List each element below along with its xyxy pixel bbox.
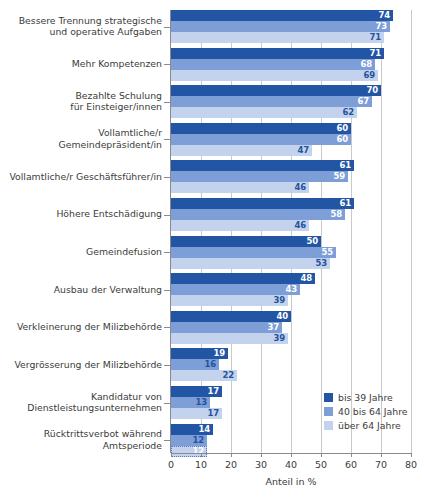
bar[interactable] [171, 198, 354, 209]
x-axis-tick-label: 30 [246, 459, 276, 470]
bar-value-label: 13 [194, 397, 207, 408]
bar[interactable] [171, 59, 375, 70]
bar-value-label: 12 [191, 446, 204, 457]
x-axis-tick-label: 80 [396, 459, 426, 470]
bar-row: 48 [171, 273, 411, 284]
legend-item-ueber-64-jahre[interactable]: über 64 Jahre [324, 417, 408, 431]
bar-group: 191622 [171, 348, 411, 381]
bar-value-label: 69 [362, 70, 375, 81]
bar[interactable] [171, 284, 300, 295]
x-axis-tick [351, 453, 352, 457]
bar[interactable] [171, 247, 336, 258]
bar-group: 484339 [171, 273, 411, 306]
x-axis-tick [201, 453, 202, 457]
category-tick [164, 290, 170, 291]
legend-item-40-bis-64-jahre[interactable]: 40 bis 64 Jahre [324, 403, 408, 417]
category-label-line: Höhere Entschädigung [0, 208, 162, 219]
category-label: Ausbau der Verwaltung [0, 284, 162, 295]
bar[interactable] [171, 333, 288, 344]
bar[interactable] [171, 48, 384, 59]
bar-row: 16 [171, 359, 411, 370]
bar[interactable] [171, 209, 345, 220]
bar[interactable] [171, 220, 309, 231]
category-tick [164, 139, 170, 140]
bar[interactable] [171, 145, 312, 156]
bar[interactable] [171, 32, 384, 43]
bar[interactable] [171, 295, 288, 306]
category-label-line: Rücktrittsverbot während [0, 428, 162, 439]
bar[interactable] [171, 258, 330, 269]
bar-row: 55 [171, 247, 411, 258]
legend-item-label: über 64 Jahre [338, 420, 401, 431]
bar-row: 71 [171, 32, 411, 43]
x-axis-tick [321, 453, 322, 457]
bar-row: 37 [171, 322, 411, 333]
category-label: Vergrösserung der Milizbehörde [0, 359, 162, 370]
bar-row: 73 [171, 21, 411, 32]
bar[interactable] [171, 123, 351, 134]
category-tick [164, 440, 170, 441]
bar[interactable] [171, 236, 321, 247]
bar-row: 71 [171, 48, 411, 59]
category-tick [164, 27, 170, 28]
category-label: Mehr Kompetenzen [0, 58, 162, 69]
gridline [411, 10, 412, 453]
bar-value-label: 70 [365, 85, 378, 96]
bar[interactable] [171, 70, 378, 81]
category-tick [164, 403, 170, 404]
legend-swatch-icon [324, 407, 333, 416]
bar-row: 47 [171, 145, 411, 156]
bar-row: 70 [171, 85, 411, 96]
category-label: Bessere Trennung strategischeund operati… [0, 15, 162, 38]
category-label-line: Vollamtliche/r Geschäftsführer/in [0, 171, 162, 182]
category-tick [164, 252, 170, 253]
x-axis-tick-label: 0 [156, 459, 186, 470]
category-label: Gemeindefusion [0, 246, 162, 257]
bar-value-label: 59 [332, 171, 345, 182]
bar-row: 61 [171, 198, 411, 209]
category-label-line: Amtsperiode [0, 440, 162, 451]
x-axis-tick [381, 453, 382, 457]
bar[interactable] [171, 171, 348, 182]
bar-row: 39 [171, 333, 411, 344]
bar-group: 505553 [171, 236, 411, 269]
legend-item-bis-39-jahre[interactable]: bis 39 Jahre [324, 389, 408, 403]
bar-row: 46 [171, 220, 411, 231]
bar-row: 67 [171, 96, 411, 107]
category-label: Bezahlte Schulungfür Einsteiger/innen [0, 90, 162, 113]
bar-row: 62 [171, 107, 411, 118]
category-label: Kandidatur vonDienstleistungsunternehmen [0, 391, 162, 414]
bar[interactable] [171, 311, 291, 322]
category-label-line: Verkleinerung der Milizbehörde [0, 321, 162, 332]
category-tick [164, 215, 170, 216]
bar[interactable] [171, 10, 393, 21]
bar[interactable] [171, 134, 351, 145]
bar-group: 747371 [171, 10, 411, 43]
bar-value-label: 55 [320, 247, 333, 258]
legend-item-label: bis 39 Jahre [338, 392, 393, 403]
grouped-bar-chart: 7473717168697067626060476159466158465055… [0, 0, 426, 500]
x-axis-title: Anteil in % [171, 476, 411, 487]
bar-value-label: 71 [368, 48, 381, 59]
bar-value-label: 50 [305, 236, 318, 247]
bar-value-label: 47 [296, 145, 309, 156]
bar[interactable] [171, 107, 357, 118]
bar-value-label: 19 [212, 348, 225, 359]
bar-value-label: 62 [341, 107, 354, 118]
legend-item-label: 40 bis 64 Jahre [338, 406, 408, 417]
bar[interactable] [171, 160, 354, 171]
bar[interactable] [171, 85, 381, 96]
bar-row: 61 [171, 160, 411, 171]
bar-value-label: 68 [359, 59, 372, 70]
category-label-line: Dienstleistungsunternehmen [0, 402, 162, 413]
bar[interactable] [171, 273, 315, 284]
bar-row: 58 [171, 209, 411, 220]
category-label: Verkleinerung der Milizbehörde [0, 321, 162, 332]
bar-group: 716869 [171, 48, 411, 81]
bar[interactable] [171, 96, 372, 107]
bar-group: 606047 [171, 123, 411, 156]
bar-value-label: 17 [206, 386, 219, 397]
bar-row: 39 [171, 295, 411, 306]
bar[interactable] [171, 182, 309, 193]
bar[interactable] [171, 21, 390, 32]
